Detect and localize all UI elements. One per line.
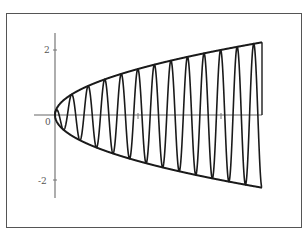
origin-label: 0 xyxy=(45,117,51,127)
y-tick-label-2: 2 xyxy=(44,45,50,55)
y-tick-label-neg2: -2 xyxy=(38,176,47,186)
chart-plot: 2 0 -2 xyxy=(0,0,306,236)
